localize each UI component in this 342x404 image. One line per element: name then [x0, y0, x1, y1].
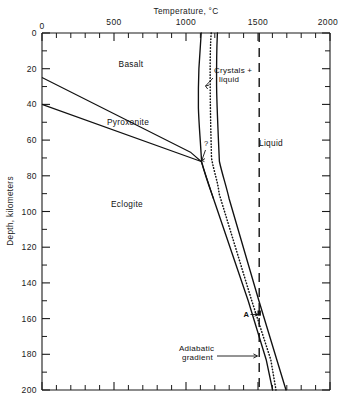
x-axis-ticks-bottom: [42, 382, 330, 390]
x-axis-ticks-top: [42, 33, 330, 41]
annotation-adiabatic-line2: gradient: [182, 353, 213, 362]
annotation-crystals-line2: liquid: [219, 75, 239, 84]
x-axis-title: Temperature, °C: [154, 6, 219, 16]
annotation-crystals-liquid: Crystals + liquid: [206, 66, 253, 89]
x-tick-labels: 0 500 1000 1500 2000: [39, 17, 338, 31]
region-label-eclogite: Eclogite: [111, 199, 143, 209]
y-axis-ticks-right: [322, 33, 330, 390]
y-tick-label-80: 80: [27, 171, 37, 181]
annotation-point-a: A: [244, 310, 261, 319]
y-tick-label-0: 0: [32, 28, 37, 38]
y-tick-label-60: 60: [27, 135, 37, 145]
y-tick-labels: 0 20 40 60 80 100 120 140 160 180 200: [22, 28, 37, 395]
y-tick-label-140: 140: [22, 278, 37, 288]
point-a-label: A: [244, 310, 250, 319]
annotation-adiabatic-line1: Adiabatic: [179, 344, 214, 353]
curve-solidus: [198, 33, 272, 390]
figure-container: 0 500 1000 1500 2000 0 20 40 60 80 100 1…: [0, 0, 342, 404]
plot-frame: [42, 33, 330, 390]
x-tick-label-1000: 1000: [176, 17, 197, 27]
region-label-basalt: Basalt: [119, 59, 144, 69]
y-tick-label-20: 20: [27, 64, 37, 74]
region-label-liquid: Liquid: [259, 138, 283, 148]
y-tick-label-120: 120: [22, 242, 37, 252]
y-axis-ticks-left: [42, 33, 50, 390]
question-mark-label: ?: [204, 139, 208, 148]
annotation-crystals-line1: Crystals +: [214, 66, 252, 75]
y-tick-label-160: 160: [22, 314, 37, 324]
y-tick-label-100: 100: [22, 207, 37, 217]
y-tick-label-200: 200: [22, 385, 37, 395]
annotation-adiabatic-gradient: Adiabatic gradient: [179, 344, 258, 362]
x-tick-label-500: 500: [106, 17, 121, 27]
curve-liquidus: [217, 33, 286, 390]
y-axis-title: Depth, kilometers: [5, 176, 15, 246]
annotation-question-mark: ?: [202, 139, 208, 162]
x-tick-label-2000: 2000: [318, 17, 339, 27]
x-tick-label-1500: 1500: [248, 17, 269, 27]
curve-crystals-liquid-dotted: [210, 33, 276, 390]
region-label-pyroxenite: Pyroxenite: [107, 117, 149, 127]
x-tick-label-0: 0: [39, 21, 44, 31]
y-tick-label-180: 180: [22, 349, 37, 359]
y-tick-label-40: 40: [27, 99, 37, 109]
phase-diagram-chart: 0 500 1000 1500 2000 0 20 40 60 80 100 1…: [0, 0, 342, 404]
